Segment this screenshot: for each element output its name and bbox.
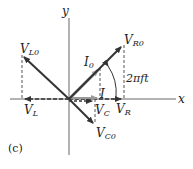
angle-arc xyxy=(108,66,116,97)
vc0-phasor xyxy=(69,99,93,123)
vr0-phasor xyxy=(69,47,121,99)
angle-label: 2πft xyxy=(126,73,149,84)
phasor-diagram xyxy=(0,0,193,169)
i-label: I xyxy=(100,88,105,100)
panel-label: (c) xyxy=(8,143,23,154)
vc-label: VC xyxy=(95,104,110,118)
vl0-phasor xyxy=(24,57,69,99)
vl0-label: VL0 xyxy=(20,43,39,57)
i0-label: I0 xyxy=(84,56,94,70)
x-axis-label: x xyxy=(178,93,185,105)
vr-label: VR xyxy=(116,103,131,117)
vl-label: VL xyxy=(24,104,38,118)
vr0-label: VR0 xyxy=(124,34,144,48)
y-axis-label: y xyxy=(62,5,69,17)
vc0-label: VC0 xyxy=(96,127,116,141)
